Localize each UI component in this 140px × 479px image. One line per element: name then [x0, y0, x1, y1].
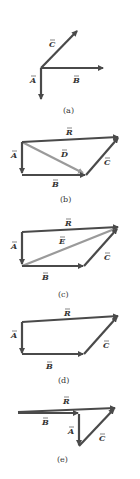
label-a: A: [10, 241, 17, 251]
label-a: A: [10, 150, 17, 160]
panel-c: R A E C B (c): [10, 218, 118, 299]
vector-c-arrow: [41, 31, 77, 68]
panel-e: R B A C (e): [18, 396, 115, 464]
label-c: C: [104, 157, 111, 167]
label-c: C: [49, 39, 56, 49]
label-a: A: [67, 426, 74, 436]
panel-a: C A B (a): [29, 31, 103, 115]
label-e: E: [58, 236, 66, 246]
label-b: B: [41, 272, 49, 282]
caption-a: (a): [63, 106, 74, 115]
panel-b: R A D C B (b): [10, 127, 118, 204]
caption-c: (c): [58, 290, 69, 299]
vector-c-arrow: [79, 409, 114, 446]
label-r: R: [62, 396, 70, 406]
vector-addition-diagram: C A B (a) R A D C B (b) R A E C B (c): [0, 0, 140, 479]
caption-d: (d): [58, 376, 69, 385]
label-b: B: [51, 179, 59, 189]
label-r: R: [63, 308, 71, 318]
label-a: A: [10, 330, 17, 340]
vector-e-arrow: [22, 228, 117, 266]
vector-r-arrow: [18, 408, 115, 412]
vector-c-arrow: [84, 317, 117, 354]
panel-d: R A C B (d): [10, 308, 118, 385]
label-b: B: [72, 75, 80, 85]
vector-c-arrow: [86, 138, 118, 175]
label-b: B: [45, 361, 53, 371]
label-a: A: [29, 75, 36, 85]
label-r: R: [64, 218, 72, 228]
label-d: D: [60, 149, 68, 159]
label-c: C: [104, 252, 111, 262]
vector-d-arrow: [22, 142, 83, 173]
caption-b: (b): [60, 195, 71, 204]
label-c: C: [99, 433, 106, 443]
label-r: R: [65, 127, 73, 137]
caption-e: (e): [57, 455, 68, 464]
vector-r-arrow: [22, 137, 118, 142]
label-c: C: [103, 340, 110, 350]
label-b: B: [41, 417, 49, 427]
